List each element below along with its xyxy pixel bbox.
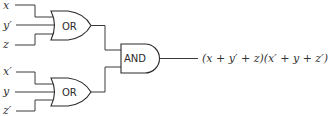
input-label-z-prime: z′ (2, 104, 12, 116)
or-gate-top-label: OR (62, 21, 77, 32)
wire-z (15, 34, 55, 45)
or-gate-bottom-label: OR (62, 87, 77, 98)
wire-or-top-to-and (91, 26, 122, 51)
output-expression: (x + y′ + z)(x′ + y + z′) (202, 52, 328, 65)
and-gate-label: AND (124, 53, 146, 64)
or-gate-bottom: OR (51, 78, 91, 106)
input-label-x: x (3, 0, 10, 12)
input-label-y: y (2, 85, 10, 98)
input-label-z: z (2, 38, 9, 51)
or-gate-top: OR (51, 11, 91, 40)
input-label-y-prime: y′ (2, 19, 12, 32)
wire-x-prime (16, 72, 55, 84)
and-gate: AND (121, 44, 160, 73)
wire-z-prime (16, 100, 55, 111)
logic-circuit-diagram: x y′ z x′ y z′ OR OR AND (x + y′ + z)(x′… (0, 0, 333, 116)
input-label-x-prime: x′ (3, 65, 12, 78)
wire-or-bottom-to-and (91, 67, 122, 92)
wire-x (15, 5, 55, 17)
